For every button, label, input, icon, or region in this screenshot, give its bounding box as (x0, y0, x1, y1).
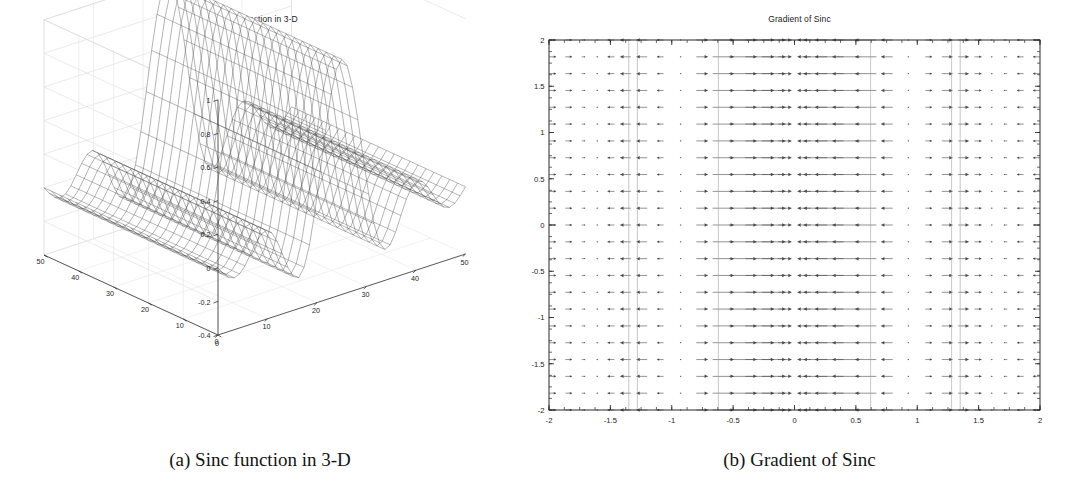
svg-text:0.8: 0.8 (201, 130, 211, 139)
svg-text:30: 30 (362, 290, 370, 299)
svg-text:30: 30 (106, 289, 114, 298)
svg-text:-0.2: -0.2 (198, 298, 210, 307)
subfigure-b-caption: (b) Gradient of Sinc (520, 449, 1079, 471)
svg-text:1: 1 (207, 96, 211, 105)
svg-text:1: 1 (915, 416, 919, 425)
subfigure-a-caption: (a) Sinc function in 3-D (0, 449, 520, 471)
svg-text:2: 2 (1038, 416, 1042, 425)
sinc-mesh-surface (44, 0, 466, 278)
svg-text:-2: -2 (538, 406, 545, 415)
subfigure-b-panel: Gradient of Sinc -2-1.5-1-0.500.511.52-2… (520, 0, 1079, 440)
svg-text:1.5: 1.5 (973, 416, 984, 425)
svg-text:40: 40 (411, 274, 419, 283)
figure-two-subplots: Sinc function in 3-D -0.4-0.200.20.40.60… (0, 0, 1079, 493)
svg-text:40: 40 (71, 273, 79, 282)
svg-text:-2: -2 (546, 416, 553, 425)
svg-text:0.5: 0.5 (534, 175, 545, 184)
svg-text:20: 20 (312, 306, 320, 315)
svg-text:-1: -1 (668, 416, 675, 425)
axes-tick-labels: -2-1.5-1-0.500.511.52-2-1.5-1-0.500.511.… (531, 36, 1042, 425)
subfigure-b-caption-text: (b) Gradient of Sinc (723, 449, 875, 471)
svg-text:-0.5: -0.5 (531, 267, 544, 276)
svg-text:-1.5: -1.5 (604, 416, 617, 425)
svg-text:20: 20 (141, 305, 149, 314)
subfigure-a-caption-text: (a) Sinc function in 3-D (169, 449, 351, 471)
svg-text:50: 50 (461, 258, 469, 267)
svg-text:1: 1 (540, 128, 544, 137)
svg-text:-1.5: -1.5 (531, 360, 544, 369)
svg-text:0.6: 0.6 (201, 163, 211, 172)
svg-text:10: 10 (176, 321, 184, 330)
svg-text:0.4: 0.4 (201, 197, 211, 206)
plot-b-canvas: -2-1.5-1-0.500.511.52-2-1.5-1-0.500.511.… (520, 0, 1079, 440)
gradient-vector-field (549, 38, 1040, 412)
plot-a-canvas: -0.4-0.200.20.40.60.81010203040500102030… (0, 0, 520, 440)
subfigure-a-panel: Sinc function in 3-D -0.4-0.200.20.40.60… (0, 0, 520, 440)
svg-text:2: 2 (540, 36, 544, 45)
svg-text:0.2: 0.2 (201, 230, 211, 239)
svg-text:1.5: 1.5 (534, 82, 545, 91)
svg-text:0: 0 (540, 221, 544, 230)
svg-text:-1: -1 (538, 313, 545, 322)
svg-text:-0.5: -0.5 (727, 416, 740, 425)
svg-text:-0.4: -0.4 (198, 331, 210, 340)
svg-text:0: 0 (792, 416, 796, 425)
svg-text:0: 0 (207, 264, 211, 273)
svg-text:0: 0 (215, 339, 219, 348)
svg-text:0.5: 0.5 (851, 416, 862, 425)
svg-text:50: 50 (37, 257, 45, 266)
svg-text:10: 10 (263, 322, 271, 331)
